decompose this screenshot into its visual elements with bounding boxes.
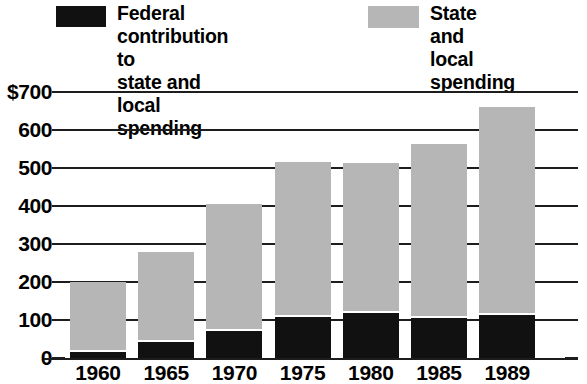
bar-segment-state-1989 — [479, 107, 535, 315]
bar-segment-state-1965 — [138, 252, 194, 342]
bar-segment-federal-1960 — [70, 352, 126, 358]
bar-group-1980 — [343, 0, 399, 384]
bar-segment-state-1975 — [275, 162, 331, 317]
x-axis-label-1980: 1980 — [337, 361, 405, 384]
x-axis-label-1975: 1975 — [269, 361, 337, 384]
bar-segment-federal-1970 — [206, 331, 262, 358]
bar-group-1985 — [411, 0, 467, 384]
bar-segment-state-1960 — [70, 282, 126, 352]
bar-group-1989 — [479, 0, 535, 384]
bar-group-1970 — [206, 0, 262, 384]
stacked-bar-chart: Federal contribution to state and local … — [0, 0, 587, 384]
x-axis-label-1989: 1989 — [473, 361, 541, 384]
bar-segment-state-1980 — [343, 163, 399, 313]
bar-segment-federal-1980 — [343, 313, 399, 358]
bar-segment-state-1970 — [206, 204, 262, 331]
bar-segment-federal-1989 — [479, 315, 535, 358]
bar-segment-federal-1985 — [411, 318, 467, 358]
x-axis-label-1960: 1960 — [64, 361, 132, 384]
bar-group-1975 — [275, 0, 331, 384]
bar-group-1965 — [138, 0, 194, 384]
bar-series-container: 1960196519701975198019851989 — [0, 0, 587, 384]
x-axis-label-1965: 1965 — [132, 361, 200, 384]
bar-group-1960 — [70, 0, 126, 384]
x-axis-label-1985: 1985 — [405, 361, 473, 384]
bar-segment-federal-1975 — [275, 317, 331, 358]
x-axis-label-1970: 1970 — [200, 361, 268, 384]
bar-segment-federal-1965 — [138, 342, 194, 358]
bar-segment-state-1985 — [411, 144, 467, 318]
